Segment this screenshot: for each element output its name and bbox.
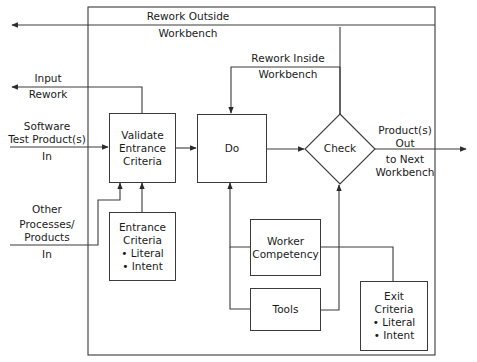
exit-bullet-intent: • Intent bbox=[374, 329, 415, 342]
product-out-label-3: to Next bbox=[370, 153, 440, 166]
exit-title-1: Exit bbox=[384, 290, 404, 303]
software-in-label-3: In bbox=[2, 150, 92, 163]
entrance-criteria-box: Entrance Criteria • Literal • Intent bbox=[109, 212, 176, 281]
check-label: Check bbox=[316, 142, 364, 155]
other-in-label-3: Products bbox=[2, 231, 92, 244]
validate-line-1: Validate bbox=[121, 129, 163, 142]
rework-inside-label-1: Rework Inside bbox=[238, 52, 338, 65]
validate-line-2: Entrance bbox=[119, 142, 166, 155]
software-in-label-2: Test Product(s) bbox=[2, 133, 92, 146]
entrance-title-2: Criteria bbox=[123, 234, 162, 247]
other-in-label-2: Processes/ bbox=[2, 218, 92, 231]
rework-inside-label-2: Workbench bbox=[238, 68, 338, 81]
other-in-label-4: In bbox=[2, 248, 92, 261]
do-box: Do bbox=[197, 114, 267, 183]
software-in-label-1: Software bbox=[2, 120, 92, 133]
tools-label: Tools bbox=[273, 303, 299, 316]
input-rework-label-1: Input bbox=[18, 72, 78, 85]
entrance-title-1: Entrance bbox=[119, 221, 166, 234]
exit-bullet-literal: • Literal bbox=[373, 316, 416, 329]
tools-box: Tools bbox=[250, 288, 321, 331]
exit-title-2: Criteria bbox=[375, 303, 414, 316]
validate-entrance-criteria-box: Validate Entrance Criteria bbox=[109, 113, 176, 183]
entrance-bullet-intent: • Intent bbox=[122, 260, 163, 273]
product-out-label-1: Product(s) bbox=[370, 124, 440, 137]
product-out-label-4: Workbench bbox=[370, 166, 440, 179]
worker-competency-box: Worker Competency bbox=[250, 219, 321, 276]
product-out-label-2: Out bbox=[370, 137, 440, 150]
exit-criteria-box: Exit Criteria • Literal • Intent bbox=[360, 281, 428, 351]
worker-line-2: Competency bbox=[252, 248, 318, 261]
rework-outside-label-1: Rework Outside bbox=[118, 10, 258, 23]
validate-line-3: Criteria bbox=[123, 155, 162, 168]
entrance-bullet-literal: • Literal bbox=[121, 247, 164, 260]
do-label: Do bbox=[225, 142, 240, 155]
rework-outside-label-2: Workbench bbox=[118, 27, 258, 40]
other-in-label-1: Other bbox=[2, 203, 92, 216]
worker-line-1: Worker bbox=[267, 235, 304, 248]
input-rework-label-2: Rework bbox=[18, 88, 78, 101]
